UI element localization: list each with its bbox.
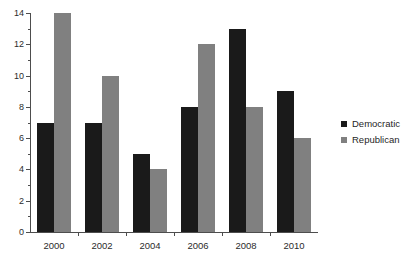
legend-label: Republican [352, 135, 400, 145]
plot-area: 02468101214 200020022004200620082010 [30, 13, 318, 232]
y-tick-minor [28, 185, 30, 186]
x-tick [270, 232, 271, 236]
bar-republican-2008 [246, 107, 263, 232]
legend-item-republican[interactable]: Republican [341, 133, 419, 147]
y-tick-label: 2 [19, 196, 24, 205]
y-axis-line [30, 13, 31, 232]
chart-legend: DemocraticRepublican [341, 117, 419, 149]
y-tick-label: 6 [19, 134, 24, 143]
bar-democratic-2002 [85, 123, 102, 233]
y-tick-minor [28, 29, 30, 30]
y-tick-label: 8 [19, 102, 24, 111]
y-tick-major [26, 169, 30, 170]
x-tick-label-2004: 2004 [139, 241, 160, 251]
y-tick-major [26, 44, 30, 45]
x-tick [78, 232, 79, 236]
x-tick-label-2010: 2010 [283, 241, 304, 251]
y-tick-major [26, 76, 30, 77]
bar-democratic-2000 [37, 123, 54, 233]
y-tick-minor [28, 154, 30, 155]
bar-republican-2010 [294, 138, 311, 232]
legend-item-democratic[interactable]: Democratic [341, 117, 419, 131]
y-tick-label: 14 [14, 9, 24, 18]
bar-democratic-2006 [181, 107, 198, 232]
y-tick-label: 10 [14, 71, 24, 80]
y-tick-major [26, 13, 30, 14]
y-tick-label: 4 [19, 165, 24, 174]
legend-swatch-icon [341, 121, 347, 127]
y-tick-major [26, 232, 30, 233]
bar-republican-2002 [102, 76, 119, 232]
y-tick-minor [28, 91, 30, 92]
bar-republican-2004 [150, 169, 167, 232]
x-tick-label-2008: 2008 [235, 241, 256, 251]
bar-democratic-2004 [133, 154, 150, 232]
bar-democratic-2010 [277, 91, 294, 232]
x-tick [222, 232, 223, 236]
chart-page: 02468101214 200020022004200620082010 Dem… [0, 0, 419, 260]
y-tick-minor [28, 60, 30, 61]
bar-republican-2006 [198, 44, 215, 232]
y-tick-minor [28, 216, 30, 217]
legend-swatch-icon [341, 137, 347, 143]
x-tick [126, 232, 127, 236]
y-tick-major [26, 201, 30, 202]
bar-democratic-2008 [229, 29, 246, 232]
y-tick-label: 12 [14, 40, 24, 49]
x-tick-label-2002: 2002 [91, 241, 112, 251]
y-tick-label: 0 [19, 228, 24, 237]
y-tick-minor [28, 123, 30, 124]
x-tick [174, 232, 175, 236]
legend-label: Democratic [352, 119, 400, 129]
y-tick-major [26, 107, 30, 108]
y-tick-major [26, 138, 30, 139]
x-tick-label-2006: 2006 [187, 241, 208, 251]
x-tick-label-2000: 2000 [43, 241, 64, 251]
bar-republican-2000 [54, 13, 71, 232]
